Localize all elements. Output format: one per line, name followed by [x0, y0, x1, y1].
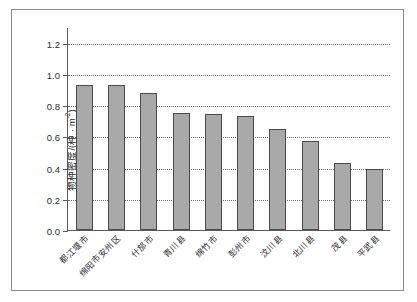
x-axis-label: 什邡市 [130, 234, 155, 259]
bar-series [68, 28, 390, 230]
y-axis-tick-label: 1.0 [47, 69, 60, 80]
bar[interactable] [334, 163, 351, 230]
bar[interactable] [205, 114, 222, 230]
figure-frame: 物种密度/(种 · m-2) 0.00.20.40.60.81.01.2 都江堰… [11, 9, 404, 291]
x-axis-label: 都江堰市 [59, 234, 90, 265]
bar[interactable] [140, 93, 157, 230]
plot-area: 0.00.20.40.60.81.01.2 都江堰市绵阳市安州区什邡市青川县绵竹… [67, 28, 390, 231]
y-axis-tick-label: 0.2 [47, 194, 60, 205]
y-axis-tick-label: 0.0 [47, 226, 60, 237]
x-axis-label: 北川县 [291, 234, 316, 259]
bar[interactable] [173, 113, 190, 230]
bar[interactable] [269, 129, 286, 231]
x-axis-label: 茂县 [330, 234, 349, 253]
x-axis-label: 青川县 [162, 234, 187, 259]
x-axis-label: 汶川县 [259, 234, 284, 259]
x-axis-label: 平武县 [356, 234, 381, 259]
bar[interactable] [76, 85, 93, 230]
y-axis-tick-label: 0.4 [47, 163, 60, 174]
y-axis-tick-label: 1.2 [47, 38, 60, 49]
bar[interactable] [366, 169, 383, 230]
y-axis-tick-label: 0.8 [47, 101, 60, 112]
bar[interactable] [237, 116, 254, 230]
bar[interactable] [108, 85, 125, 230]
bar[interactable] [302, 141, 319, 230]
x-axis-label: 彭州市 [227, 234, 252, 259]
x-axis-label: 绵竹市 [194, 234, 219, 259]
y-axis-tick-label: 0.6 [47, 132, 60, 143]
y-axis-tick-mark [63, 231, 68, 232]
